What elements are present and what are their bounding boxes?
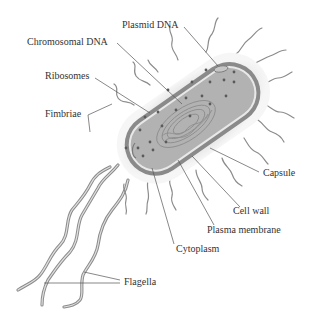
leader-fimbriae bbox=[88, 104, 112, 132]
flagella bbox=[18, 165, 128, 307]
label-flagella: Flagella bbox=[124, 276, 156, 288]
leader-cell-wall bbox=[192, 156, 240, 207]
label-ribosomes: Ribosomes bbox=[45, 70, 89, 82]
label-plasma-membrane: Plasma membrane bbox=[207, 224, 281, 236]
flagellum-2 bbox=[42, 165, 118, 305]
label-cell-wall: Cell wall bbox=[233, 205, 269, 217]
leader-capsule bbox=[210, 148, 259, 172]
label-plasmid-dna: Plasmid DNA bbox=[122, 19, 178, 31]
label-chromosomal-dna: Chromosomal DNA bbox=[27, 36, 108, 48]
label-fimbriae: Fimbriae bbox=[45, 108, 81, 120]
label-capsule: Capsule bbox=[263, 167, 295, 179]
label-cytoplasm: Cytoplasm bbox=[176, 243, 219, 255]
leader-chromosomal-dna bbox=[117, 43, 182, 104]
flagellum-1 bbox=[18, 167, 110, 290]
